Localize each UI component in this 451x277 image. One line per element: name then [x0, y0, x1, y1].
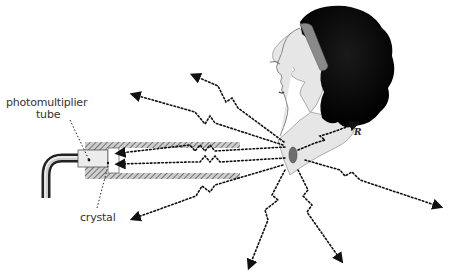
- photomultiplier-tube: [78, 150, 108, 167]
- diagram-canvas: [0, 0, 451, 277]
- radiation-rays: [120, 76, 438, 265]
- cable: [45, 157, 78, 198]
- label-crystal: crystal: [80, 212, 116, 224]
- label-tube: tube: [36, 109, 60, 121]
- thyroid-gland: [289, 147, 297, 163]
- artist-signature: R: [354, 127, 361, 137]
- crystal: [108, 148, 119, 173]
- patient-head: [270, 6, 394, 175]
